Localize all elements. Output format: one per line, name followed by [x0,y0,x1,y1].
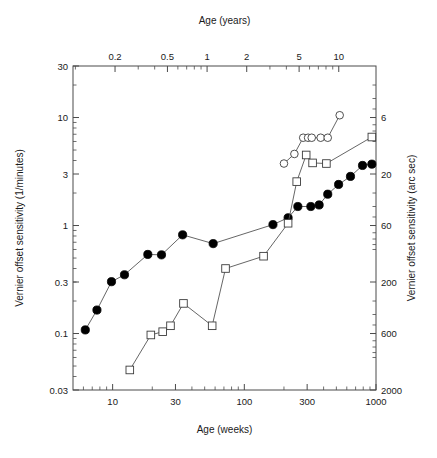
x-top-tick-label: 0.5 [161,51,174,62]
y-right-tick-label: 2000 [381,385,402,396]
y-tick-label: 3 [63,169,68,180]
data-point-open-circles [317,134,325,142]
data-point-filled-circles [120,271,128,279]
data-point-open-squares [293,178,301,186]
data-point-open-squares [208,322,216,330]
x-tick-label: 300 [299,396,315,407]
x-tick-label: 10 [107,396,118,407]
data-point-filled-circles [157,251,165,259]
x-top-tick-label: 10 [333,51,344,62]
left-axis-title: Vernier offset sensitivity (1/minutes) [14,149,25,307]
data-point-filled-circles [81,326,89,334]
data-point-filled-circles [144,250,152,258]
vernier-sensitivity-chart: 103010030010000.20.5125100.030.10.313103… [0,0,437,458]
y-right-tick-label: 6 [381,112,386,123]
x-top-tick-label: 2 [244,51,249,62]
y-tick-label: 10 [57,112,68,123]
data-point-open-squares [147,331,155,339]
right-axis-title: Vernier offset sensitivity (arc sec) [406,155,417,302]
data-point-open-squares [167,322,175,330]
data-point-open-squares [126,366,134,374]
y-tick-label: 1 [63,220,68,231]
data-point-open-squares [368,133,376,141]
data-point-filled-circles [358,161,366,169]
data-point-open-squares [302,151,310,159]
y-right-tick-label: 200 [381,277,397,288]
y-tick-label: 0.03 [50,385,69,396]
data-point-open-squares [309,159,317,167]
y-tick-label: 0.1 [55,328,68,339]
x-tick-label: 100 [236,396,252,407]
y-right-tick-label: 600 [381,328,397,339]
data-point-filled-circles [107,278,115,286]
data-point-open-squares [222,265,230,273]
data-point-filled-circles [269,221,277,229]
x-tick-label: 1000 [365,396,386,407]
y-tick-label: 0.3 [55,277,68,288]
y-right-tick-label: 60 [381,220,392,231]
bottom-axis-title: Age (weeks) [197,424,253,435]
y-tick-label: 30 [57,61,68,72]
data-point-filled-circles [335,180,343,188]
data-point-open-circles [308,134,316,142]
top-axis-title: Age (years) [199,15,251,26]
data-point-filled-circles [93,306,101,314]
y-right-tick-label: 20 [381,169,392,180]
data-point-open-squares [323,160,331,168]
data-point-filled-circles [307,202,315,210]
data-point-filled-circles [209,240,217,248]
x-tick-label: 30 [170,396,181,407]
data-point-filled-circles [346,172,354,180]
chart-figure: 103010030010000.20.5125100.030.10.313103… [0,0,437,458]
x-top-tick-label: 1 [204,51,209,62]
series-line-filled-circles [85,164,372,330]
data-point-open-circles [324,134,332,142]
data-point-open-squares [260,252,268,260]
data-point-filled-circles [315,201,323,209]
data-point-filled-circles [324,190,332,198]
x-top-tick-label: 0.2 [108,51,121,62]
x-top-tick-label: 5 [296,51,301,62]
data-point-filled-circles [179,231,187,239]
data-point-open-circles [336,111,344,119]
data-point-open-squares [284,219,292,227]
data-point-open-circles [280,160,288,168]
data-point-open-squares [159,328,167,336]
data-point-filled-circles [294,202,302,210]
data-point-open-squares [180,300,188,308]
plot-frame [73,66,376,390]
data-point-open-circles [291,150,299,158]
data-point-filled-circles [368,160,376,168]
